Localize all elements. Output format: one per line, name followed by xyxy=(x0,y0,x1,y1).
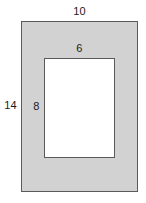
inner-width-label: 6 xyxy=(0,42,146,54)
outer-width-label: 10 xyxy=(0,5,146,17)
inner-rectangle xyxy=(44,58,115,158)
diagram-canvas: 10 14 6 8 xyxy=(0,0,146,203)
outer-height-label: 14 xyxy=(2,99,19,111)
inner-height-label: 8 xyxy=(31,100,42,112)
